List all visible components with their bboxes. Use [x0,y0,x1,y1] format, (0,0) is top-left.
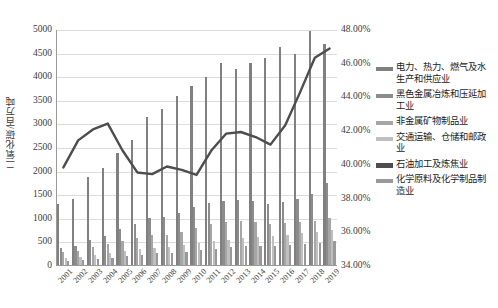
plot-area [56,30,337,266]
y-axis-left-tick-label: 2000 [8,167,52,177]
legend-swatch [376,67,393,71]
x-axis-tick-label: 2003 [86,267,104,285]
y-axis-right-tick-label: 36.00% [341,228,383,238]
legend-item[interactable]: 电力、热力、燃气及水生产和供应业 [376,62,496,85]
legend-item[interactable]: 非金属矿物制品业 [376,116,496,128]
x-axis-tick-label: 2018 [308,267,326,285]
chart-legend: 电力、热力、燃气及水生产和供应业黑色金属冶炼和压延加工业非金属矿物制品业交通运输… [376,62,496,201]
y-axis-left-tick-label: 1000 [8,214,52,224]
legend-swatch [376,179,393,183]
y-axis-left-tick-label: 500 [8,238,52,248]
plot-frame [56,30,337,266]
y-axis-left-tick-label: 5000 [8,25,52,35]
y-axis-right-tick-label: 48.00% [341,25,383,35]
legend-swatch [376,163,393,168]
y-axis-left-ticks: 0500100015002000250030003500400045005000 [4,30,52,266]
x-axis-tick-label: 2002 [72,267,90,285]
y-axis-right-tick-label: 34.00% [341,261,383,271]
legend-item[interactable]: 石油加工及炼焦业 [376,159,496,171]
x-axis-tick-label: 2006 [131,267,149,285]
x-axis-tick-label: 2012 [219,267,237,285]
x-axis-tick-label: 2013 [234,267,252,285]
legend-item-label: 黑色金属冶炼和压延加工业 [396,89,492,112]
x-axis-tick-label: 2009 [175,267,193,285]
x-axis-tick-label: 2016 [279,267,297,285]
legend-swatch [376,121,393,125]
legend-swatch [376,137,393,141]
legend-item-label: 化学原料及化学制品制造业 [396,174,492,197]
x-axis-tick-label: 2004 [101,267,119,285]
x-axis-tick-label: 2017 [293,267,311,285]
legend-item-label: 电力、热力、燃气及水生产和供应业 [396,62,492,85]
legend-item[interactable]: 交通运输、仓储和邮政业 [376,132,496,155]
y-axis-left-tick-label: 0 [8,261,52,271]
legend-item[interactable]: 化学原料及化学制品制造业 [376,174,496,197]
y-axis-left-tick-label: 1500 [8,190,52,200]
x-axis-tick-label: 2007 [146,267,164,285]
y-axis-left-tick-label: 4000 [8,72,52,82]
legend-item[interactable]: 黑色金属冶炼和压延加工业 [376,89,496,112]
x-axis-tick-label: 2019 [323,267,341,285]
x-axis-tick-label: 2011 [205,267,223,285]
y-axis-left-tick-label: 3500 [8,96,52,106]
legend-item-label: 非金属矿物制品业 [396,116,492,128]
x-axis-ticks: 2001200220032004200520062007200820092010… [56,267,337,307]
legend-item-label: 石油加工及炼焦业 [396,159,492,171]
legend-item-label: 交通运输、仓储和邮政业 [396,132,492,155]
legend-swatch [376,94,393,98]
y-axis-left-tick-label: 4500 [8,49,52,59]
x-axis-tick-label: 2008 [160,267,178,285]
y-axis-left-tick-label: 2500 [8,143,52,153]
y-axis-left-tick-label: 3000 [8,120,52,130]
chart-root: 二氧化碳/百万吨 0500100015002000250030003500400… [0,0,498,308]
